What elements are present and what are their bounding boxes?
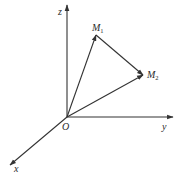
point-M2-label: M2 (146, 69, 159, 81)
vector-M1-M2 (96, 35, 143, 75)
x-axis (10, 117, 67, 165)
vector-O-M1 (67, 35, 96, 117)
point-M1-label: M1 (91, 22, 104, 34)
y-axis-label: y (161, 121, 167, 132)
coordinate-diagram: z y x O M1 M2 (0, 0, 185, 184)
x-axis-label: x (13, 163, 19, 174)
z-axis-label: z (57, 6, 62, 17)
vector-O-M2 (67, 75, 143, 117)
origin-label: O (62, 121, 69, 132)
